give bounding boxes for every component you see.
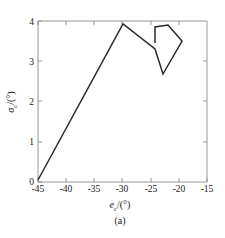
y-tick-label-0: 0 bbox=[29, 177, 34, 187]
y-axis-ticks bbox=[38, 21, 207, 182]
y-tick-label-1: 1 bbox=[29, 137, 34, 147]
y-axis-title: σc/(°) bbox=[5, 91, 18, 112]
y-axis-title-unit: /(°) bbox=[5, 91, 17, 104]
x-tick-label-1: -40 bbox=[60, 184, 73, 194]
chart-svg: -45 -40 -35 -30 -25 -20 -15 0 1 2 3 4 ec… bbox=[0, 0, 225, 238]
y-tick-label-3: 3 bbox=[29, 57, 34, 67]
series-hysteresis-path bbox=[38, 24, 182, 180]
y-tick-label-2: 2 bbox=[29, 97, 34, 107]
x-tick-label-6: -15 bbox=[201, 184, 214, 194]
axes-frame bbox=[38, 21, 207, 182]
x-tick-labels: -45 -40 -35 -30 -25 -20 -15 bbox=[32, 184, 214, 194]
svg-text:σc/(°): σc/(°) bbox=[5, 91, 18, 112]
y-tick-label-4: 4 bbox=[29, 17, 34, 27]
figure-container: -45 -40 -35 -30 -25 -20 -15 0 1 2 3 4 ec… bbox=[0, 0, 225, 238]
x-axis-title-unit: /(°) bbox=[117, 199, 130, 211]
x-tick-label-3: -30 bbox=[116, 184, 129, 194]
data-series-group bbox=[38, 24, 182, 180]
x-tick-label-4: -25 bbox=[145, 184, 158, 194]
svg-text:ec/(°): ec/(°) bbox=[110, 199, 131, 212]
figure-caption: (a) bbox=[114, 215, 125, 227]
x-axis-title: ec/(°) bbox=[110, 199, 131, 212]
x-tick-label-2: -35 bbox=[88, 184, 101, 194]
y-tick-labels: 0 1 2 3 4 bbox=[29, 17, 34, 187]
x-tick-label-5: -20 bbox=[173, 184, 186, 194]
x-axis-ticks bbox=[38, 21, 207, 182]
